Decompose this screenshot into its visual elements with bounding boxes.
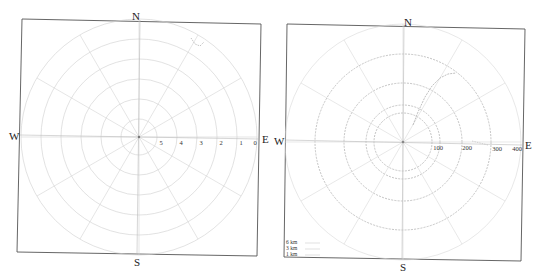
right-center-dot [402, 141, 405, 144]
left-trace [191, 38, 204, 46]
left-tick-4: 4 [179, 139, 183, 146]
left-label-e: E [262, 133, 269, 145]
left-label-s: S [134, 256, 140, 268]
left-tick-1: 1 [239, 139, 242, 146]
right-label-n: N [404, 16, 412, 28]
legend-1km: 1 km [286, 251, 298, 257]
right-label-w: W [274, 135, 285, 147]
left-center-dot [138, 136, 140, 138]
left-label-n: N [132, 10, 140, 22]
right-tick-200: 200 [462, 144, 472, 151]
left-tick-2: 2 [219, 139, 222, 146]
legend: 6 km 3 km 1 km [286, 239, 320, 257]
right-label-s: S [400, 261, 406, 273]
left-tick-0: 0 [253, 139, 256, 146]
hodograph-trace [413, 73, 456, 125]
right-tick-400: 400 [512, 145, 522, 152]
left-polar-plot: N S E W 5 4 3 2 1 0 [9, 10, 269, 268]
right-label-e: E [525, 139, 532, 151]
left-tick-5: 5 [159, 139, 162, 146]
left-tick-3: 3 [199, 139, 202, 146]
right-tick-100: 100 [433, 144, 443, 151]
chart-canvas: N S E W 5 4 3 2 1 0 [0, 0, 537, 278]
right-tick-300: 300 [492, 145, 502, 152]
right-polar-plot: N S E W 100 200 300 400 6 km 3 km 1 km [274, 16, 532, 273]
left-label-w: W [9, 130, 20, 142]
